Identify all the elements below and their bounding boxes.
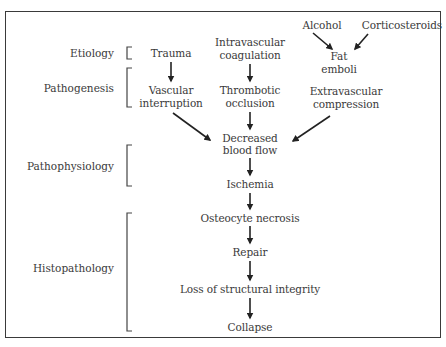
arrow-vascular-to-decreased [173,113,210,140]
bracket-pathogenesis [127,68,132,107]
bracket-etiology [127,47,132,59]
diagram-connectors [0,0,446,347]
arrow-corticosteroids-to-fat [355,34,368,49]
bracket-histopathology [127,213,132,331]
arrow-alcohol-to-fat [313,33,332,49]
bracket-pathophysiology [127,145,132,186]
arrow-extravascular-to-decreased [293,116,330,141]
